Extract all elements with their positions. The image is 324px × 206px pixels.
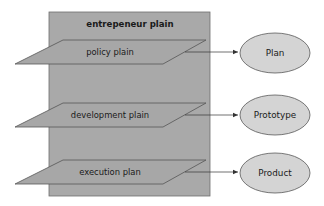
prototype-ellipse: Prototype [240, 95, 310, 135]
plane-label: policy plain [86, 47, 134, 57]
container-title: entrepeneur plain [86, 19, 173, 29]
output-label: Product [258, 168, 292, 178]
product-ellipse: Product [240, 153, 310, 193]
diagram-canvas: entrepeneur plain policy plain developme… [0, 0, 324, 206]
output-label: Plan [266, 48, 285, 58]
output-label: Prototype [254, 110, 296, 120]
plan-ellipse: Plan [240, 33, 310, 73]
plane-label: development plain [71, 110, 149, 120]
plane-label: execution plan [79, 167, 141, 177]
